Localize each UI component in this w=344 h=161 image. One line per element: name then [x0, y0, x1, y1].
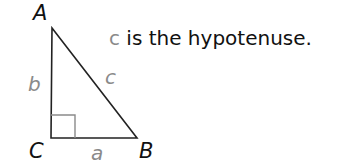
vertex-label-b: B: [139, 139, 153, 161]
caption-text: is the hypotenuse.: [120, 26, 312, 50]
right-angle-mark: [51, 115, 75, 138]
caption-variable: c: [109, 26, 120, 50]
vertex-label-c: C: [29, 139, 44, 161]
vertex-label-a: A: [31, 1, 47, 25]
hypotenuse-caption: c is the hypotenuse.: [109, 26, 312, 50]
side-label-c: c: [105, 65, 116, 89]
side-label-a: a: [91, 141, 103, 161]
right-triangle-diagram: A B C a b c: [0, 0, 344, 161]
side-label-b: b: [28, 72, 41, 96]
